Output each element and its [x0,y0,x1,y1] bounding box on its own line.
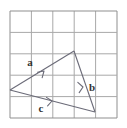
vector-a-label: a [27,56,33,68]
figure-background [0,0,127,128]
vector-c-label: c [39,102,44,114]
vector-b-label: b [89,81,95,93]
vector-triangle-figure: a b c [0,0,127,128]
vector-diagram-canvas: a b c [0,0,127,128]
